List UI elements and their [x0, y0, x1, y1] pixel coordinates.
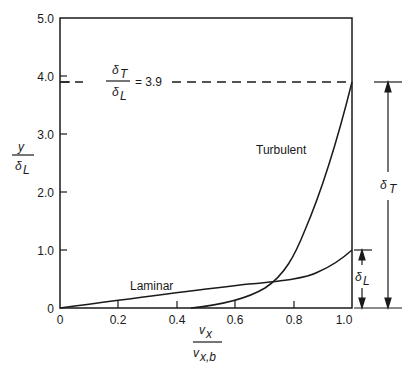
svg-text:x,b: x,b — [199, 350, 216, 364]
svg-text:L: L — [363, 274, 370, 288]
x-tick-label: 0.2 — [110, 313, 127, 327]
svg-text:δ: δ — [112, 85, 119, 99]
svg-text:δ: δ — [15, 159, 22, 173]
delta-t-dimension — [374, 82, 402, 308]
svg-text:δ: δ — [112, 63, 119, 77]
y-tick-label: 5.0 — [37, 12, 54, 26]
delta-l-label: δ L — [355, 270, 370, 288]
y-tick-label: 1.0 — [37, 244, 54, 258]
x-tick-label: 0.8 — [286, 313, 303, 327]
turbulent-curve — [191, 82, 352, 308]
x-ticks — [118, 301, 294, 308]
svg-text:y: y — [17, 140, 25, 154]
svg-text:= 3.9: = 3.9 — [135, 75, 162, 89]
svg-text:δ: δ — [380, 178, 387, 192]
plot-frame — [60, 18, 352, 308]
x-tick-label: 0.4 — [169, 313, 186, 327]
svg-text:T: T — [120, 67, 129, 81]
svg-text:L: L — [120, 89, 127, 103]
y-tick-label: 4.0 — [37, 70, 54, 84]
turbulent-label: Turbulent — [256, 143, 307, 157]
svg-text:x: x — [205, 327, 213, 341]
laminar-curve — [60, 250, 352, 308]
x-tick-label: 1.0 — [336, 313, 353, 327]
laminar-label: Laminar — [130, 279, 173, 293]
svg-text:δ: δ — [355, 270, 362, 284]
svg-text:T: T — [389, 182, 398, 196]
y-tick-label: 3.0 — [37, 128, 54, 142]
delta-t-label: δ T — [380, 178, 398, 196]
x-axis-label: v x v x,b — [193, 323, 222, 364]
ratio-label: δ T δ L = 3.9 — [106, 63, 162, 103]
boundary-layer-chart: 5.0 4.0 3.0 2.0 1.0 0 0 0.2 0.4 0.6 0.8 … — [0, 0, 415, 370]
y-tick-label: 0 — [47, 302, 54, 316]
svg-text:v: v — [193, 346, 200, 360]
y-tick-label: 2.0 — [37, 186, 54, 200]
y-axis-label: y δ L — [12, 140, 34, 177]
x-tick-label: 0 — [57, 313, 64, 327]
svg-text:v: v — [199, 323, 206, 337]
y-ticks — [60, 76, 67, 250]
x-tick-label: 0.6 — [227, 313, 244, 327]
svg-text:L: L — [23, 163, 30, 177]
